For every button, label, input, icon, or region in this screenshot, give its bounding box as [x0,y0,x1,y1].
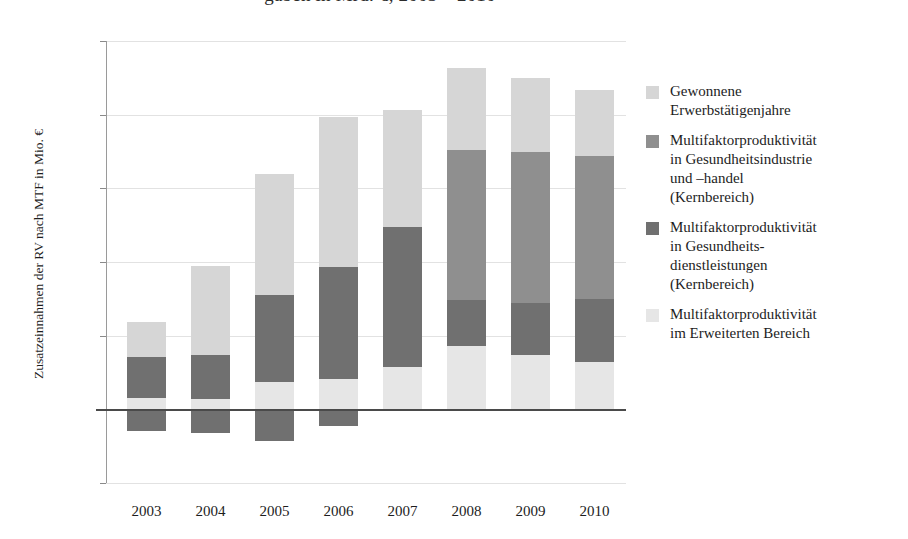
bar-segment-erwerbstaetigenjahre[interactable] [575,90,614,156]
bar-segment-dienstleistungen[interactable] [319,267,358,379]
y-tick-mark [100,336,106,337]
legend-item-mfp_erweiterter_bereich[interactable]: Multifaktorproduktivität im Erweiterten … [646,305,902,343]
y-axis-spine [106,41,107,483]
bar-segment-dienstleistungen[interactable] [255,295,294,382]
bar-group-2009[interactable] [511,41,550,483]
bar-group-2005[interactable] [255,41,294,483]
bar-segment-erwerbstaetigenjahre[interactable] [511,78,550,152]
bar-segment-industrie[interactable] [511,152,550,303]
bar-group-2006[interactable] [319,41,358,483]
bar-segment-erweiterter[interactable] [447,346,486,409]
y-tick-mark [100,41,106,42]
bar-group-2003[interactable] [127,41,166,483]
bar-segment-dienstleistungen[interactable] [511,303,550,355]
y-axis-title: Zusatzeinnahmen der RV nach MTF in Mio. … [31,29,47,479]
bar-group-2010[interactable] [575,41,614,483]
chart-page: gaben in Mrd. €, 2003 – 2010 Zusatzeinna… [0,0,908,539]
legend-swatch-icon [646,222,659,235]
legend-item-label: Multifaktorproduktivität in Gesundheitsi… [670,131,817,207]
legend-item-mfp_gesundheitsindustrie[interactable]: Multifaktorproduktivität in Gesundheitsi… [646,131,902,207]
bar-segment-industrie[interactable] [447,150,486,300]
bar-segment-industrie[interactable] [575,156,614,299]
legend-item-label: Multifaktorproduktivität in Gesundheits-… [670,218,817,294]
bar-segment-erweiterter[interactable] [255,382,294,409]
bar-segment-erwerbstaetigenjahre[interactable] [127,322,166,357]
bar-segment-erweiterter[interactable] [575,362,614,409]
bar-segment-negativ[interactable] [127,409,166,431]
bar-segment-erwerbstaetigenjahre[interactable] [447,68,486,151]
bar-segment-dienstleistungen[interactable] [191,355,230,399]
legend: Gewonnene ErwerbstätigenjahreMultifaktor… [646,82,902,354]
legend-item-gewonnene_erwerbstaetigenjahre[interactable]: Gewonnene Erwerbstätigenjahre [646,82,902,120]
y-tick-mark [100,115,106,116]
y-tick-mark [100,262,106,263]
bar-segment-negativ[interactable] [191,409,230,433]
legend-swatch-icon [646,309,659,322]
plot-area: 2.5002.0001.5001.0005000-500 20032004200… [106,41,626,483]
bar-segment-dienstleistungen[interactable] [575,299,614,362]
bar-segment-erweiterter[interactable] [319,379,358,409]
bar-segment-negativ[interactable] [255,409,294,441]
bar-group-2008[interactable] [447,41,486,483]
bar-segment-erweiterter[interactable] [191,399,230,409]
bar-segment-erwerbstaetigenjahre[interactable] [383,110,422,227]
legend-swatch-icon [646,135,659,148]
legend-swatch-icon [646,86,659,99]
bar-segment-negativ[interactable] [319,409,358,426]
bar-segment-erweiterter[interactable] [383,367,422,410]
y-tick-mark [100,188,106,189]
legend-item-label: Gewonnene Erwerbstätigenjahre [670,82,791,120]
bar-segment-erweiterter[interactable] [127,398,166,409]
bar-segment-erwerbstaetigenjahre[interactable] [255,174,294,296]
bar-segment-dienstleistungen[interactable] [383,227,422,367]
bar-segment-dienstleistungen[interactable] [447,300,486,346]
legend-item-label: Multifaktorproduktivität im Erweiterten … [670,305,817,343]
gridline [106,483,626,484]
bar-segment-erweiterter[interactable] [511,355,550,410]
legend-item-mfp_gesundheitsdienstleistungen[interactable]: Multifaktorproduktivität in Gesundheits-… [646,218,902,294]
x-tick-label-2010: 2010 [555,503,635,520]
bar-group-2007[interactable] [383,41,422,483]
y-tick-mark [100,483,106,484]
bar-segment-erwerbstaetigenjahre[interactable] [191,266,230,355]
page-title: gaben in Mrd. €, 2003 – 2010 [120,0,640,6]
bar-segment-erwerbstaetigenjahre[interactable] [319,117,358,267]
bar-segment-dienstleistungen[interactable] [127,357,166,398]
bar-group-2004[interactable] [191,41,230,483]
zero-baseline [96,409,626,411]
